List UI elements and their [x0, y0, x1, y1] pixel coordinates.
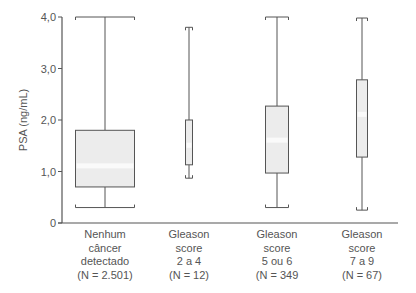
y-tick-label: 2,0	[41, 114, 56, 126]
y-tick-label: 1,0	[41, 166, 56, 178]
y-tick-label: 4,0	[41, 11, 56, 23]
box-2	[186, 27, 193, 178]
iqr-box	[76, 130, 135, 187]
axes: 01,02,03,04,0	[41, 11, 398, 229]
category-label-line: detectado	[60, 255, 150, 269]
category-label-2: Gleasonscore2 a 4(N = 12)	[144, 228, 234, 282]
category-label-4: Gleasonscore7 a 9(N = 67)	[317, 228, 407, 282]
iqr-box	[186, 120, 193, 165]
median-band	[358, 112, 367, 117]
category-label-line: 2 a 4	[144, 255, 234, 269]
category-label-line: Gleason	[317, 228, 407, 242]
median-band	[77, 163, 134, 168]
category-label-line: score	[317, 242, 407, 256]
box-1	[76, 17, 135, 208]
box-4	[357, 18, 368, 210]
category-label-line: câncer	[60, 242, 150, 256]
category-label-line: (N = 349	[232, 269, 322, 283]
category-label-line: score	[144, 242, 234, 256]
category-label-line: (N = 2.501)	[60, 269, 150, 283]
category-label-line: 5 ou 6	[232, 255, 322, 269]
category-label-line: 7 a 9	[317, 255, 407, 269]
category-label-line: Gleason	[232, 228, 322, 242]
y-tick-label: 0	[50, 217, 56, 229]
category-label-line: Nenhum	[60, 228, 150, 242]
boxes	[76, 17, 368, 210]
category-label-3: Gleasonscore5 ou 6(N = 349	[232, 228, 322, 282]
category-label-line: score	[232, 242, 322, 256]
box-3	[266, 17, 289, 208]
category-label-line: (N = 67)	[317, 269, 407, 283]
category-label-line: Gleason	[144, 228, 234, 242]
y-tick-label: 3,0	[41, 63, 56, 75]
iqr-box	[357, 80, 368, 157]
category-label-line: (N = 12)	[144, 269, 234, 283]
median-band	[267, 138, 288, 143]
category-label-1: Nenhumcâncerdetectado(N = 2.501)	[60, 228, 150, 282]
median-band	[187, 143, 192, 148]
y-axis-label: PSA (ng/mL)	[17, 89, 29, 151]
